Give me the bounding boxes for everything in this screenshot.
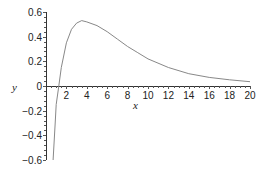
y-tick-label: −0.2	[22, 106, 42, 117]
x-axis-label: x	[132, 99, 138, 111]
y-tick-label: −0.6	[22, 155, 42, 166]
x-tick-label: 20	[244, 90, 256, 101]
y-tick-label: 0	[36, 81, 42, 92]
x-tick-label: 18	[224, 90, 236, 101]
x-tick-label: 14	[183, 90, 195, 101]
x-tick-label: 10	[142, 90, 154, 101]
x-tick-label: 12	[163, 90, 175, 101]
x-tick-label: 16	[204, 90, 216, 101]
x-tick-label: 2	[64, 90, 70, 101]
x-tick-label: 8	[125, 90, 131, 101]
x-tick-label: 6	[104, 90, 110, 101]
y-tick-label: 0.4	[28, 32, 42, 43]
y-tick-label: 0.2	[28, 56, 42, 67]
y-axis-label: y	[11, 81, 17, 93]
x-tick-label: 4	[84, 90, 90, 101]
y-tick-label: 0.6	[28, 7, 42, 18]
y-tick-label: −0.4	[22, 130, 42, 141]
line-chart: 24681012141618200.60.40.20−0.2−0.4−0.6 x…	[0, 0, 268, 178]
